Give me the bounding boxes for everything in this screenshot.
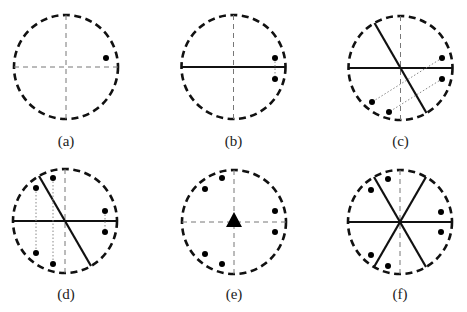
panel-b: (b): [182, 15, 286, 150]
pole-dot: [438, 229, 444, 235]
panel-c: (c): [349, 16, 453, 150]
pole-dot: [202, 186, 208, 192]
panel-e-label: (e): [226, 286, 243, 303]
pole-dot: [369, 99, 375, 105]
pole-dot: [219, 175, 225, 181]
pole-dot: [385, 176, 391, 182]
panel-f-label: (f): [393, 286, 408, 303]
pole-dot: [272, 76, 278, 82]
pole-dot: [386, 109, 392, 115]
pole-dot: [272, 229, 278, 235]
pole-dot: [103, 55, 109, 61]
pole-dot: [33, 185, 39, 191]
panel-a: (a): [14, 15, 118, 150]
pole-dot: [272, 208, 278, 214]
pole-dot: [368, 252, 374, 258]
pole-dot: [368, 187, 374, 193]
symmetry-operations-figure: (a) (b) (c) (: [0, 0, 467, 312]
pole-dot: [439, 55, 445, 61]
pole-dot: [438, 209, 444, 215]
pole-dot: [202, 251, 208, 257]
threefold-axis-triangle-icon: [226, 212, 242, 227]
pole-dot: [102, 208, 108, 214]
panel-c-label: (c): [392, 133, 409, 150]
panel-f: (f): [348, 170, 452, 303]
pole-dot: [50, 175, 56, 181]
panel-b-label: (b): [225, 133, 243, 150]
panel-a-label: (a): [58, 133, 75, 150]
panel-d-label: (d): [57, 286, 75, 303]
pole-dot: [385, 263, 391, 269]
pole-dot: [439, 76, 445, 82]
pole-dot: [219, 261, 225, 267]
pole-dot: [50, 261, 56, 267]
pole-dot: [272, 55, 278, 61]
panel-e: (e): [182, 170, 286, 303]
stereogram-circle: [14, 15, 118, 119]
panel-d: (d): [13, 169, 117, 303]
pole-dot: [33, 250, 39, 256]
pole-dot: [102, 229, 108, 235]
